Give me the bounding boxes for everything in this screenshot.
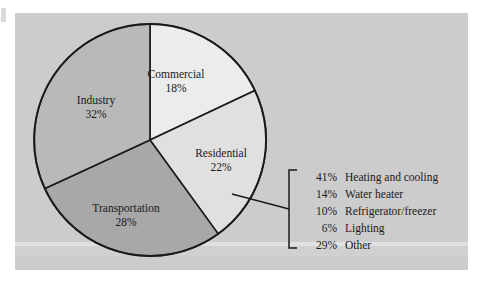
slice-label-industry-name: Industry — [77, 94, 116, 107]
breakout-percent-3: 6% — [322, 222, 338, 234]
slice-label-industry-value: 32% — [85, 108, 107, 120]
breakout-list: 41% Heating and cooling 14% Water heater… — [316, 171, 439, 251]
slice-label-transportation-value: 28% — [115, 216, 137, 228]
slice-label-commercial-name: Commercial — [148, 68, 205, 80]
figure-root: Commercial 18% Residential 22% Transport… — [0, 0, 483, 284]
slice-label-residential-value: 22% — [210, 161, 232, 173]
slice-label-transportation-name: Transportation — [92, 202, 160, 215]
breakout-label-2: Refrigerator/freezer — [345, 205, 436, 218]
breakout-percent-1: 14% — [316, 188, 338, 200]
breakout-percent-2: 10% — [316, 205, 338, 217]
breakout-label-4: Other — [345, 239, 371, 251]
breakout-label-3: Lighting — [345, 222, 385, 235]
slice-label-residential-name: Residential — [195, 147, 247, 159]
callout-bracket — [289, 170, 297, 248]
breakout-percent-0: 41% — [316, 171, 338, 183]
pie-slices — [34, 24, 266, 256]
slice-label-commercial-value: 18% — [165, 82, 187, 94]
pie-chart: Commercial 18% Residential 22% Transport… — [0, 0, 483, 284]
breakout-label-1: Water heater — [345, 188, 403, 200]
breakout-percent-4: 29% — [316, 239, 338, 251]
breakout-label-0: Heating and cooling — [345, 171, 439, 184]
